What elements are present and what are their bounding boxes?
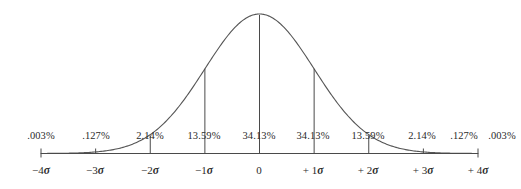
x-axis-label: + 2σ [358, 165, 379, 177]
x-axis-label: + 4σ [468, 165, 489, 177]
axis-label-sigma-symbol: σ [482, 164, 488, 176]
axis-label-sign: + [413, 164, 422, 176]
axis-label-sign: + [468, 164, 477, 176]
x-axis-label: 0 [256, 165, 262, 177]
x-axis-label: −3σ [86, 165, 104, 177]
percent-label: .127% [450, 131, 478, 142]
axis-label-sign: + [303, 164, 312, 176]
percent-label: 2.14% [136, 131, 164, 142]
bell-curve-svg [0, 0, 521, 189]
x-axis-label: + 3σ [413, 165, 434, 177]
percent-label: 13.59% [188, 131, 221, 142]
axis-label-sigma-symbol: σ [317, 164, 323, 176]
axis-label-sigma-symbol: σ [372, 164, 378, 176]
percent-label: .003% [27, 131, 55, 142]
percent-label: 2.14% [408, 131, 436, 142]
axis-label-number: 0 [256, 164, 262, 176]
percent-label: 13.59% [352, 131, 385, 142]
x-axis-label: + 1σ [303, 165, 324, 177]
axis-label-sigma-symbol: σ [44, 164, 50, 176]
axis-label-sign: + [358, 164, 367, 176]
axis-label-sigma-symbol: σ [153, 164, 159, 176]
normal-distribution-figure: .003%.127%2.14%13.59%34.13%34.13%13.59%2… [0, 0, 521, 189]
x-axis-label: −1σ [195, 165, 213, 177]
axis-label-sigma-symbol: σ [98, 164, 104, 176]
x-axis-label: −4σ [32, 165, 50, 177]
percent-label: .127% [82, 131, 110, 142]
x-axis-label: −2σ [141, 165, 159, 177]
percent-label: .003% [488, 131, 516, 142]
percent-label: 34.13% [243, 131, 276, 142]
percent-label: 34.13% [297, 131, 330, 142]
axis-label-sigma-symbol: σ [207, 164, 213, 176]
axis-label-sigma-symbol: σ [427, 164, 433, 176]
